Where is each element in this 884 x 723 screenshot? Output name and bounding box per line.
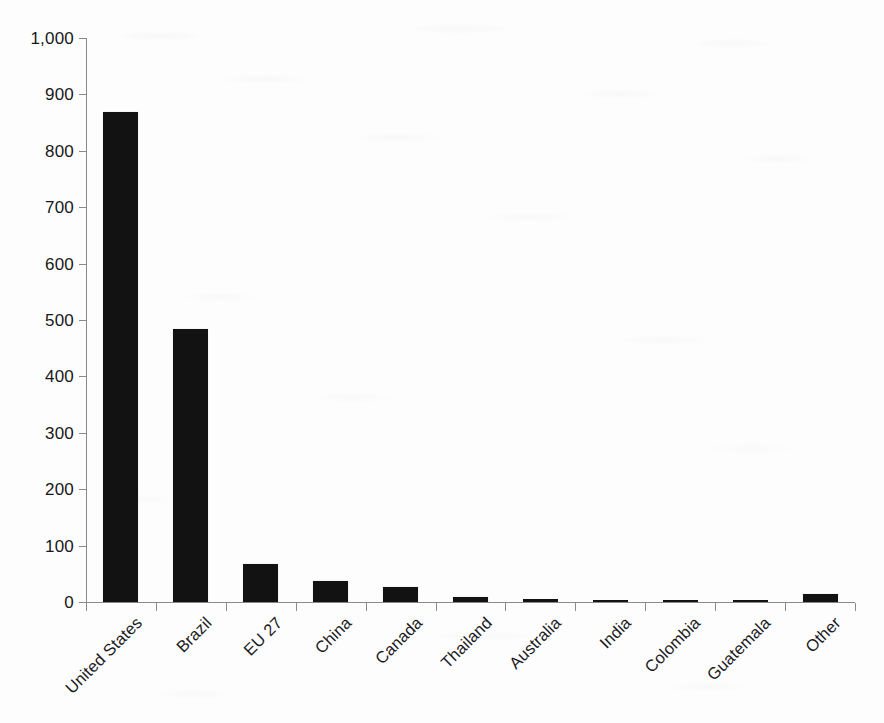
x-axis-tick <box>785 603 786 611</box>
y-axis-label: 800 <box>6 142 74 159</box>
x-axis-label: Brazil <box>173 614 214 655</box>
bar <box>663 600 698 602</box>
bar <box>173 329 208 602</box>
bar <box>103 112 138 602</box>
chart-page: 01002003004005006007008009001,000 United… <box>0 0 884 723</box>
x-axis-tick <box>436 603 437 611</box>
x-axis-tick <box>366 603 367 611</box>
y-axis-tick <box>79 546 87 547</box>
bar <box>243 564 278 602</box>
bar <box>383 587 418 602</box>
x-axis-tick <box>156 603 157 611</box>
x-axis-tick <box>296 603 297 611</box>
x-axis-tick <box>575 603 576 611</box>
x-axis-tick <box>645 603 646 611</box>
y-axis-tick <box>79 94 87 95</box>
x-axis-tick <box>715 603 716 611</box>
x-axis-label: EU 27 <box>240 614 284 658</box>
y-axis-tick <box>79 264 87 265</box>
x-axis-tick <box>86 603 87 611</box>
x-axis-label: China <box>311 614 354 657</box>
bar-chart-plot-area: 01002003004005006007008009001,000 United… <box>0 0 884 723</box>
y-axis-label: 600 <box>6 255 74 272</box>
y-axis-label: 1,000 <box>6 30 74 47</box>
y-axis-tick <box>79 433 87 434</box>
y-axis-label: 900 <box>6 86 74 103</box>
y-axis-label: 300 <box>6 424 74 441</box>
x-axis-line <box>86 602 855 603</box>
y-axis-tick <box>79 38 87 39</box>
x-axis-tick <box>855 603 856 611</box>
y-axis-label: 0 <box>6 594 74 611</box>
x-axis-tick <box>505 603 506 611</box>
x-axis-label: Colombia <box>642 614 704 676</box>
bar <box>733 600 768 602</box>
x-axis-label: United States <box>62 614 145 697</box>
y-axis-label: 100 <box>6 537 74 554</box>
y-axis-label: 500 <box>6 312 74 329</box>
x-axis-label: Canada <box>372 614 425 667</box>
y-axis-label: 700 <box>6 199 74 216</box>
bar <box>453 597 488 602</box>
y-axis-tick <box>79 320 87 321</box>
bar <box>803 594 838 602</box>
bar <box>313 581 348 602</box>
bar <box>523 599 558 602</box>
y-axis-tick <box>79 489 87 490</box>
x-axis-label: Thailand <box>437 614 494 671</box>
bar <box>593 600 628 602</box>
x-axis-label: Australia <box>506 614 564 672</box>
x-axis-label: Guatemala <box>704 614 773 683</box>
x-axis-label: Other <box>802 614 843 655</box>
y-axis-label: 400 <box>6 368 74 385</box>
y-axis-tick <box>79 151 87 152</box>
x-axis-tick <box>226 603 227 611</box>
y-axis-tick <box>79 376 87 377</box>
y-axis-tick <box>79 207 87 208</box>
y-axis-label: 200 <box>6 481 74 498</box>
x-axis-label: India <box>597 614 634 651</box>
